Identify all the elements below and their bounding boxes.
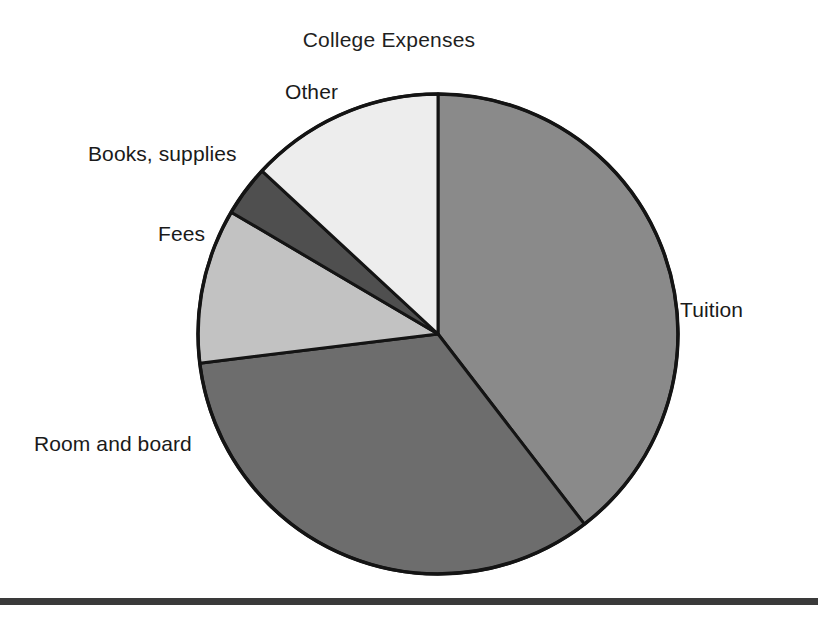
slice-label-books-supplies: Books, supplies <box>88 142 237 166</box>
footer-rule <box>0 598 818 605</box>
slice-label-room-and-board: Room and board <box>34 432 192 456</box>
pie-slices <box>198 94 678 574</box>
pie-chart-figure: College Expenses Other Books, supplies F… <box>0 0 818 630</box>
slice-label-tuition: Tuition <box>680 298 743 322</box>
chart-title: College Expenses <box>0 28 798 52</box>
slice-label-fees: Fees <box>158 222 205 246</box>
slice-label-other: Other <box>285 80 338 104</box>
